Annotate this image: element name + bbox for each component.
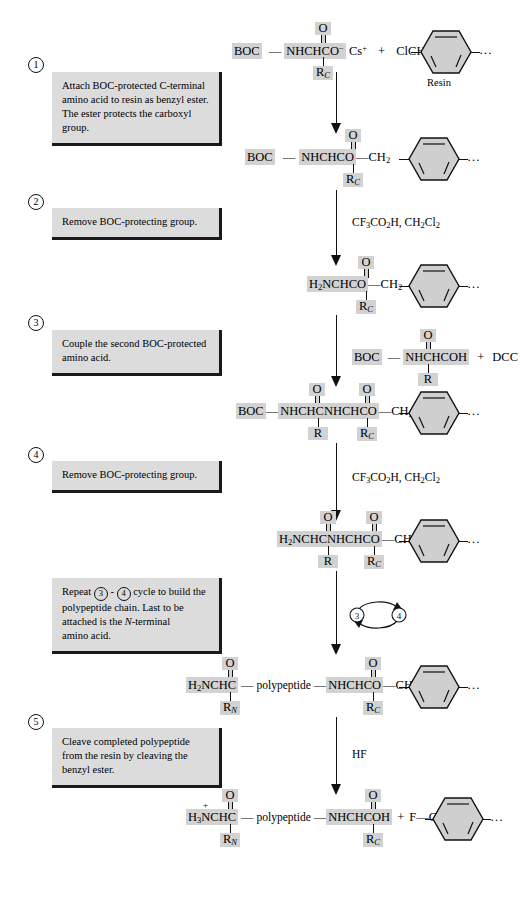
polypeptide-label: polypeptide bbox=[257, 811, 311, 823]
boc-group: BOC bbox=[352, 349, 382, 365]
benzene-ring-row5 bbox=[408, 389, 460, 437]
reaction-arrow-5 bbox=[331, 571, 342, 655]
r-group-row2: RC bbox=[343, 164, 363, 187]
resin-label: Resin bbox=[427, 77, 451, 88]
r-label: RC bbox=[313, 66, 333, 80]
r-label: RC bbox=[363, 833, 383, 847]
polypeptide-label: polypeptide bbox=[257, 679, 311, 691]
benzyl-linker: CH2 bbox=[369, 150, 391, 164]
ellipsis-row6: … bbox=[467, 531, 480, 547]
c-terminal-core: NHCHCOH bbox=[326, 809, 392, 825]
r-label: R bbox=[418, 373, 438, 386]
dipeptide-core: NHCHCNHCHCO bbox=[278, 403, 379, 419]
r-label: RN bbox=[220, 833, 240, 847]
r-label: RC bbox=[356, 300, 376, 314]
carbonyl-row8-right: O bbox=[365, 789, 381, 811]
boc-group: BOC bbox=[232, 43, 262, 59]
benzene-ring-row3 bbox=[408, 262, 460, 310]
r-label: RC bbox=[357, 427, 377, 441]
callout-line: Remove BOC-protecting group. bbox=[62, 469, 197, 480]
reaction-arrow-6 bbox=[331, 717, 342, 795]
boc-group: BOC bbox=[245, 149, 275, 165]
r-group-row5-a: R bbox=[308, 418, 328, 440]
callout-step-5: Cleave completed polypeptide from the re… bbox=[52, 728, 222, 788]
ellipsis-row2: … bbox=[467, 149, 480, 165]
ellipsis-row3: … bbox=[467, 276, 480, 292]
amino-acid-core: NHCHCOH bbox=[403, 349, 469, 365]
callout-line: Remove BOC-protecting group. bbox=[62, 216, 197, 227]
plus-sign: + bbox=[477, 350, 484, 364]
r-group-row5-b: RC bbox=[357, 418, 377, 441]
r-label: R bbox=[318, 555, 338, 568]
step-number-4: 4 bbox=[28, 445, 44, 463]
callout-line: Couple the second BOC-protected bbox=[62, 338, 206, 349]
structure-row7: H2NCHC—polypeptide—NHCHCO—CH2 bbox=[186, 678, 417, 693]
carbonyl-row5-a: O bbox=[309, 383, 325, 405]
dcc-reagent: DCC bbox=[492, 350, 518, 364]
step-marker-1: 1 bbox=[28, 57, 44, 73]
r-label: RC bbox=[343, 173, 363, 187]
carbonyl-row5-b: O bbox=[359, 383, 375, 405]
benzene-ring-row8 bbox=[432, 795, 484, 843]
ellipsis-row8: … bbox=[490, 809, 503, 825]
structure-row8: H3NCHC—polypeptide—NHCHCOH+F—CH2 bbox=[186, 810, 450, 825]
r-label: R bbox=[308, 427, 328, 440]
r-label: RC bbox=[364, 555, 384, 569]
step-marker-2: 2 bbox=[28, 194, 44, 210]
ellipsis-row1: … bbox=[479, 42, 492, 58]
n-terminal-core: H2NCHC bbox=[186, 677, 238, 693]
r-group-row6-a: R bbox=[318, 546, 338, 568]
ellipsis-row5: … bbox=[467, 403, 480, 419]
carbonyl-row7-left: O bbox=[222, 657, 238, 679]
reagent-tfa-2: CF3CO2H, CH2Cl2 bbox=[352, 471, 440, 485]
fluoride-label: F bbox=[409, 810, 416, 824]
c-terminal-core: NHCHCO bbox=[326, 677, 383, 693]
r-group-row8-right: RC bbox=[363, 824, 383, 847]
callout-step-2: Remove BOC-protecting group. bbox=[52, 208, 222, 240]
benzene-ring-row6 bbox=[408, 517, 460, 565]
inline-marker-4: 4 bbox=[117, 587, 131, 601]
callout-step-4: Remove BOC-protecting group. bbox=[52, 461, 222, 493]
callout-line: benzyl ester. bbox=[62, 764, 114, 775]
carbonyl-row4-side: O bbox=[420, 329, 436, 351]
carbonyl-row6-a: O bbox=[320, 511, 336, 533]
r-group-row7-right: RC bbox=[363, 692, 383, 715]
benzyl-linker: CH2 bbox=[381, 277, 403, 291]
benzene-ring-row1 bbox=[420, 28, 472, 76]
carbonyl-row2: O bbox=[345, 129, 361, 151]
callout-step-3: Couple the second BOC-protected amino ac… bbox=[52, 330, 222, 376]
step-marker-3: 3 bbox=[28, 315, 44, 331]
step-number-2: 2 bbox=[28, 192, 44, 210]
svg-text:3: 3 bbox=[355, 611, 360, 621]
carbonyl-row7-right: O bbox=[365, 657, 381, 679]
structure-row2: BOC—NHCHCO—CH2 bbox=[245, 150, 390, 165]
plus-sign: + bbox=[397, 810, 404, 824]
step-number-5: 5 bbox=[28, 712, 44, 730]
dipeptide-core: H2NCHCNHCHCO bbox=[277, 531, 382, 547]
r-group-row6-b: RC bbox=[364, 546, 384, 569]
ellipsis-row7: … bbox=[467, 677, 480, 693]
reaction-arrow-1 bbox=[331, 72, 342, 134]
callout-step-1: Attach BOC-protected C-terminal amino ac… bbox=[52, 72, 222, 146]
diagram-canvas: 1 2 3 4 5 Attach BOC-protected C-termina… bbox=[0, 0, 520, 897]
carbonyl-row3: O bbox=[358, 256, 374, 278]
callout-line: amino acid to resin as benzyl ester. bbox=[62, 94, 209, 105]
carbonyl-row1: O bbox=[315, 22, 331, 44]
carbonyl-row6-b: O bbox=[366, 511, 382, 533]
reaction-arrow-4 bbox=[331, 443, 342, 521]
callout-line: Attach BOC-protected C-terminal bbox=[62, 80, 205, 91]
r-group-row1: RC bbox=[313, 57, 333, 80]
reaction-arrow-3 bbox=[331, 315, 342, 387]
benzene-ring-row7 bbox=[408, 663, 460, 711]
structure-row3: H2NCHCO—CH2 bbox=[307, 277, 402, 292]
svg-text:4: 4 bbox=[397, 611, 402, 621]
reaction-arrow-2 bbox=[331, 190, 342, 266]
reagent-hf: HF bbox=[352, 748, 367, 760]
r-label: RC bbox=[363, 701, 383, 715]
boc-group: BOC bbox=[236, 403, 266, 419]
step-number-1: 1 bbox=[28, 55, 44, 73]
reagent-tfa-1: CF3CO2H, CH2Cl2 bbox=[352, 216, 440, 230]
amino-acid-core: NHCHCO bbox=[299, 149, 356, 165]
plus-sign: + bbox=[378, 44, 385, 58]
benzene-ring-row2 bbox=[408, 135, 460, 183]
